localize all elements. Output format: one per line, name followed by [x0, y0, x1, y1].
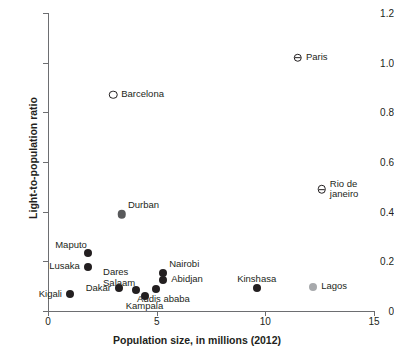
x-tick-label: 5 [137, 316, 177, 327]
y-tick-label: 0.2 [362, 256, 394, 267]
data-point-marker[interactable] [152, 285, 160, 293]
y-tick-mark [43, 212, 48, 213]
data-point-label: Lagos [321, 281, 347, 292]
x-axis-title: Population size, in millions (2012) [0, 334, 394, 346]
scatter-plot: 00.20.40.60.81.01.2 051015 Light-to-popu… [0, 0, 394, 353]
data-point-marker[interactable] [253, 284, 261, 292]
y-tick-label: 1.0 [362, 57, 394, 68]
data-point-label: Nairobi [169, 259, 199, 270]
data-point-marker[interactable] [118, 210, 127, 219]
data-point-label: Paris [306, 52, 328, 63]
y-tick-mark [43, 261, 48, 262]
y-tick-label: 0.8 [362, 107, 394, 118]
data-point-marker[interactable] [159, 276, 167, 284]
y-tick-mark [43, 162, 48, 163]
x-tick-label: 0 [28, 316, 68, 327]
x-tick-label: 15 [354, 316, 394, 327]
data-point-marker[interactable] [159, 269, 167, 277]
y-tick-label: 1.2 [362, 8, 394, 19]
data-point-marker[interactable] [294, 53, 303, 62]
y-tick-label: 0.4 [362, 206, 394, 217]
data-point-label: Dares Salaam [103, 267, 135, 288]
x-tick-label: 10 [245, 316, 285, 327]
data-point-label: Kigali [39, 289, 62, 300]
y-tick-mark [43, 63, 48, 64]
data-point-label: Addis ababa [137, 294, 190, 305]
data-point-label: Rio de janeiro [330, 179, 359, 200]
data-point-label: Lusaka [49, 261, 80, 272]
data-point-marker[interactable] [318, 185, 327, 194]
data-point-label: Kinshasa [237, 274, 276, 285]
y-axis-title: Light-to-population ratio [27, 73, 39, 243]
data-point-marker[interactable] [66, 290, 74, 298]
data-point-label: Maputo [55, 240, 87, 251]
data-point-marker[interactable] [84, 263, 92, 271]
y-tick-mark [43, 13, 48, 14]
x-axis-line [48, 311, 374, 312]
y-tick-label: 0 [362, 306, 394, 317]
data-point-label: Abidjan [171, 274, 203, 285]
y-tick-mark [43, 112, 48, 113]
data-point-marker[interactable] [109, 91, 118, 100]
data-point-marker[interactable] [309, 283, 317, 291]
y-tick-label: 0.6 [362, 157, 394, 168]
data-point-label: Durban [128, 200, 159, 211]
data-point-label: Barcelona [121, 89, 164, 100]
